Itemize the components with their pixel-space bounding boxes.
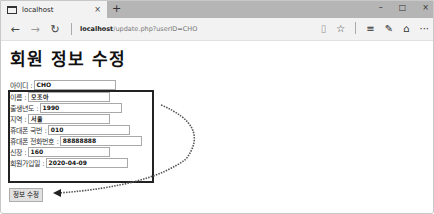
browser-window: localhost × + – □ × ← → ↻ localhost/upda… — [0, 0, 434, 214]
reading-view-icon[interactable]: ▯ — [321, 23, 327, 34]
dotted-arrow-annotation — [1, 41, 433, 213]
page-content: 회원 정보 수정 아이디 : CHO 이름 : 모조아 출생년도 : 1990 … — [1, 41, 433, 213]
address-path: /update.php?userID=CHO — [113, 25, 197, 33]
forward-button[interactable]: → — [25, 23, 45, 36]
toolbar-divider — [355, 22, 356, 34]
back-button[interactable]: ← — [5, 23, 25, 36]
window-controls: – □ × — [379, 3, 429, 12]
share-icon[interactable]: ⌂ — [403, 23, 409, 34]
refresh-button[interactable]: ↻ — [45, 23, 65, 36]
tab-close-icon[interactable]: × — [94, 5, 101, 14]
close-window-button[interactable]: × — [422, 3, 429, 12]
tab-title: localhost — [22, 6, 94, 14]
nav-divider — [71, 23, 72, 35]
address-bar[interactable]: localhost/update.php?userID=CHO — [80, 25, 197, 33]
address-host: localhost — [80, 25, 113, 33]
minimize-button[interactable]: – — [379, 3, 383, 12]
more-icon[interactable]: ··· — [419, 23, 429, 34]
new-tab-button[interactable]: + — [112, 2, 121, 15]
web-note-icon[interactable]: ✎ — [385, 23, 393, 34]
navigation-bar: ← → ↻ localhost/update.php?userID=CHO ▯ … — [1, 18, 433, 41]
favorite-star-icon[interactable]: ☆ — [336, 23, 345, 34]
hub-icon[interactable]: ≡ — [366, 23, 374, 34]
title-bar: localhost × + – □ × — [1, 1, 433, 18]
browser-tab[interactable]: localhost × — [1, 1, 107, 18]
maximize-button[interactable]: □ — [399, 3, 407, 12]
tab-page-icon — [7, 6, 17, 14]
browser-toolbar: ▯ ☆ ≡ ✎ ⌂ ··· — [321, 22, 429, 34]
